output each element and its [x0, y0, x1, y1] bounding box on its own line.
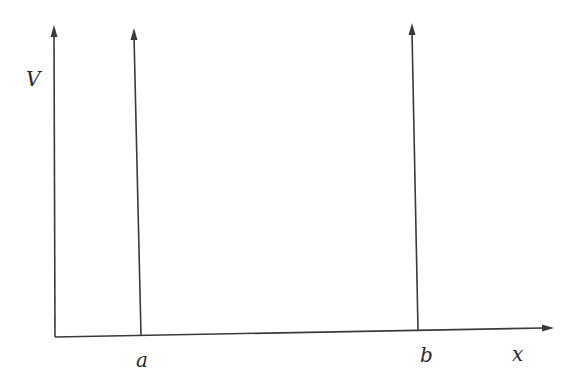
wall-a-arrowhead-icon [131, 28, 138, 40]
y-axis [51, 25, 58, 337]
wall-a-arrow [131, 28, 142, 335]
wall-a-label: a [136, 348, 148, 372]
y-axis-label: V [26, 67, 43, 91]
wall-b-label: b [420, 343, 433, 367]
x-axis [55, 325, 554, 338]
x-axis-arrowhead-icon [542, 325, 554, 332]
wall-b-arrow [409, 23, 419, 330]
y-axis-arrowhead-icon [51, 25, 58, 37]
potential-diagram: V a b x [0, 0, 572, 390]
x-axis-label: x [512, 342, 523, 366]
wall-b-arrowhead-icon [409, 23, 416, 35]
